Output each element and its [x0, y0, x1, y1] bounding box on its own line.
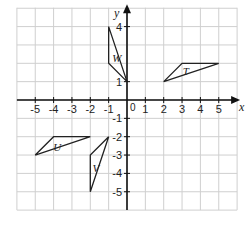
x-tick-label: -2: [85, 103, 95, 115]
x-tick-label: 5: [216, 103, 222, 115]
x-tick-label: 1: [142, 103, 148, 115]
x-tick-label: -4: [49, 103, 59, 115]
y-tick-label: -3: [112, 149, 122, 161]
x-tick-label: 3: [179, 103, 185, 115]
triangle-u: [35, 137, 90, 155]
y-tick-label: -5: [112, 186, 122, 198]
x-tick-label: -3: [67, 103, 77, 115]
y-tick-label: -2: [112, 131, 122, 143]
x-axis-label: x: [238, 100, 245, 114]
x-tick-label: 4: [197, 103, 203, 115]
y-axis-label: y: [113, 6, 120, 20]
coordinate-plane: -5-4-3-2-11234541-1-2-3-4-50xyWTUV: [0, 0, 251, 228]
x-tick-label: 2: [161, 103, 167, 115]
triangle-label-u: U: [53, 141, 62, 153]
coordinate-grid-diagram: -5-4-3-2-11234541-1-2-3-4-50xyWTUV: [0, 0, 251, 228]
x-tick-label: -5: [30, 103, 40, 115]
y-tick-label: -4: [112, 167, 122, 179]
origin-label: 0: [130, 102, 136, 113]
y-tick-label: 4: [116, 21, 122, 33]
y-tick-label: 1: [116, 76, 122, 88]
triangle-label-w: W: [112, 52, 122, 64]
y-tick-label: -1: [112, 112, 122, 124]
triangle-label-t: T: [183, 65, 190, 77]
triangle-t: [164, 63, 219, 81]
